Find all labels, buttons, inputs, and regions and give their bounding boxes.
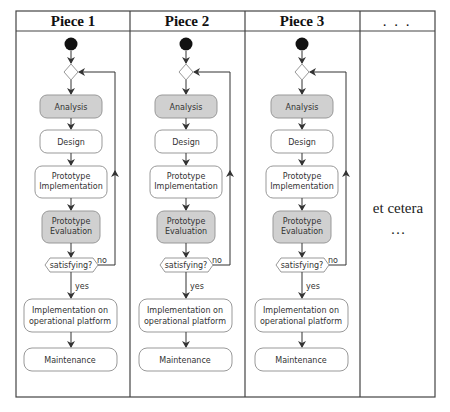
svg-text:Design: Design — [288, 138, 316, 147]
svg-text:Prototype: Prototype — [167, 172, 206, 181]
piece-3-flow: Analysis Design Prototype Implementation… — [255, 38, 348, 372]
svg-text:Maintenance: Maintenance — [275, 356, 327, 365]
svg-text:Maintenance: Maintenance — [159, 356, 211, 365]
svg-text:satisfying?: satisfying? — [165, 261, 208, 270]
svg-text:yes: yes — [75, 282, 89, 291]
activity-implementation-operational — [255, 299, 348, 332]
svg-text:Implementation on: Implementation on — [147, 306, 223, 315]
svg-text:Maintenance: Maintenance — [44, 356, 96, 365]
et-cetera-dots: … — [391, 221, 406, 237]
activity-implementation-operational — [139, 299, 232, 332]
svg-text:satisfying?: satisfying? — [50, 261, 93, 270]
svg-text:Implementation on: Implementation on — [32, 306, 108, 315]
column-header-piece-2: Piece 2 — [165, 13, 210, 29]
svg-text:Prototype: Prototype — [52, 172, 91, 181]
svg-text:Evaluation: Evaluation — [281, 227, 323, 236]
activity-implementation-operational — [24, 299, 117, 332]
svg-text:operational platform: operational platform — [144, 317, 226, 326]
start-node-icon — [180, 38, 193, 51]
svg-text:Prototype: Prototype — [283, 172, 322, 181]
svg-text:Prototype: Prototype — [167, 217, 206, 226]
svg-text:Implementation: Implementation — [154, 182, 218, 191]
column-header-ellipsis: . . . — [383, 13, 412, 29]
svg-text:Implementation on: Implementation on — [263, 306, 339, 315]
svg-text:satisfying?: satisfying? — [281, 261, 324, 270]
merge-node-icon — [295, 64, 309, 80]
column-header-piece-1: Piece 1 — [51, 13, 96, 29]
iterative-development-diagram: Piece 1 Piece 2 Piece 3 . . . Analysis D… — [0, 0, 450, 412]
start-node-icon — [296, 38, 309, 51]
svg-text:Analysis: Analysis — [170, 103, 203, 112]
svg-text:no: no — [328, 256, 338, 265]
svg-text:Evaluation: Evaluation — [50, 227, 92, 236]
svg-text:Prototype: Prototype — [283, 217, 322, 226]
svg-text:operational platform: operational platform — [260, 317, 342, 326]
piece-1-flow: Analysis Design Prototype Implementation… — [24, 38, 117, 372]
start-node-icon — [65, 38, 78, 51]
svg-text:Evaluation: Evaluation — [165, 227, 207, 236]
svg-text:yes: yes — [306, 282, 320, 291]
svg-text:no: no — [212, 256, 222, 265]
svg-text:Design: Design — [57, 138, 85, 147]
svg-text:Design: Design — [172, 138, 200, 147]
svg-text:Analysis: Analysis — [286, 103, 319, 112]
svg-text:Implementation: Implementation — [270, 182, 334, 191]
svg-text:operational platform: operational platform — [29, 317, 111, 326]
svg-text:no: no — [97, 256, 107, 265]
piece-2-flow: Analysis Design Prototype Implementation… — [139, 38, 232, 372]
svg-text:yes: yes — [190, 282, 204, 291]
et-cetera-text: et cetera — [373, 200, 424, 216]
svg-text:Prototype: Prototype — [52, 217, 91, 226]
svg-text:Analysis: Analysis — [55, 103, 88, 112]
merge-node-icon — [179, 64, 193, 80]
merge-node-icon — [64, 64, 78, 80]
svg-text:Implementation: Implementation — [39, 182, 103, 191]
column-header-piece-3: Piece 3 — [280, 13, 325, 29]
